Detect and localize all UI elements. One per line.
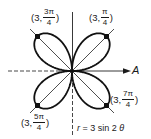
angle-fraction: 5π 4 (33, 113, 45, 132)
label-pi-over-4: (3, π 4 ) (89, 8, 113, 27)
angle-denominator: 4 (47, 18, 51, 27)
angle-numerator: π (101, 8, 109, 18)
angle-numerator: 7π (122, 90, 134, 100)
angle-fraction: 7π 4 (122, 90, 134, 109)
tip-dot-7pi-over-4 (104, 103, 109, 108)
label-7pi-over-4: (3, 7π 4 ) (110, 90, 138, 109)
angle-fraction: π 4 (101, 8, 109, 27)
equation-body: = 3 sin 2 (80, 123, 119, 133)
polar-axis-arrow-icon (123, 68, 131, 74)
label-prefix: (3, (21, 118, 32, 128)
angle-numerator: 3π (43, 8, 55, 18)
tip-dot-5pi-over-4 (35, 103, 40, 108)
label-3pi-over-4: (3, 3π 4 ) (31, 8, 59, 27)
label-suffix: ) (56, 13, 59, 23)
label-prefix: (3, (89, 13, 100, 23)
equation-label: r = 3 sin 2 θ (77, 123, 124, 133)
angle-fraction: 3π 4 (43, 8, 55, 27)
label-prefix: (3, (31, 13, 42, 23)
angle-denominator: 4 (103, 18, 107, 27)
tip-dot-3pi-over-4 (35, 34, 40, 39)
angle-denominator: 4 (37, 123, 41, 132)
equation-theta: θ (119, 123, 124, 133)
polar-axis-label: A (132, 64, 139, 76)
angle-numerator: 5π (33, 113, 45, 123)
angle-denominator: 4 (126, 100, 130, 109)
label-prefix: (3, (110, 95, 121, 105)
label-suffix: ) (110, 13, 113, 23)
label-5pi-over-4: (3, 5π 4 ) (21, 113, 49, 132)
label-suffix: ) (135, 95, 138, 105)
label-suffix: ) (46, 118, 49, 128)
tip-dot-pi-over-4 (104, 34, 109, 39)
